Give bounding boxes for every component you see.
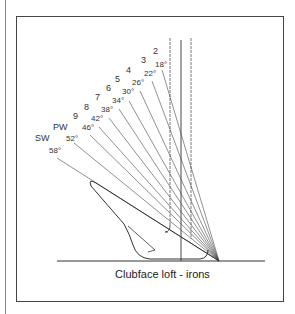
loft-label-5: 30° [122, 87, 134, 96]
loft-line-8 [99, 127, 219, 261]
club-label-7: 7 [95, 92, 100, 102]
figure-caption: Clubface loft - irons [0, 268, 295, 280]
club-head-outline [90, 181, 219, 261]
club-heel-detail [128, 226, 155, 252]
club-label-8: 8 [84, 102, 89, 112]
loft-label-4: 26° [132, 78, 144, 87]
loft-label-8: 42° [91, 114, 103, 123]
loft-label-pw: 52° [66, 134, 78, 143]
loft-label-9: 46° [82, 123, 94, 132]
loft-label-sw: 58° [49, 146, 61, 155]
club-label-6: 6 [106, 83, 111, 93]
loft-label-6: 34° [112, 96, 124, 105]
club-label-4: 4 [126, 65, 131, 75]
club-label-pw: PW [53, 122, 68, 132]
loft-line-6 [119, 109, 219, 261]
club-label-2: 2 [153, 46, 158, 56]
clubface-loft-diagram: 2 3 4 5 6 7 8 9 PW SW 18° 22° 26° 30° 34… [0, 0, 295, 314]
loft-line-7 [109, 118, 219, 261]
club-label-9: 9 [73, 111, 78, 121]
loft-line-5 [129, 101, 219, 261]
loft-line-2 [162, 70, 219, 261]
loft-lines [57, 70, 219, 261]
loft-label-3: 22° [144, 69, 156, 78]
loft-label-2: 18° [155, 60, 167, 69]
club-label-5: 5 [115, 74, 120, 84]
loft-line-9 [90, 135, 219, 261]
loft-label-7: 38° [101, 105, 113, 114]
club-label-3: 3 [141, 55, 146, 65]
club-label-sw: SW [35, 133, 50, 143]
